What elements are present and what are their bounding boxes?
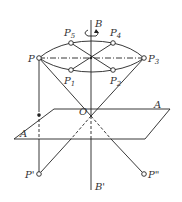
- label-p3: P3: [147, 53, 160, 66]
- point-p: [37, 56, 42, 61]
- label-b-prime: B': [94, 181, 105, 192]
- label-pdouble: P": [147, 169, 159, 180]
- line-o-pdouble-hidden: [91, 116, 111, 139]
- diagram-svg: B B' O A A P P5 P4 P3 P1 P2 P' P": [0, 0, 182, 202]
- line-o-pprime-hidden: [71, 116, 91, 139]
- point-p4: [111, 41, 116, 46]
- arc-p1-p2: [71, 70, 113, 72]
- arc-p-p5: [39, 43, 71, 58]
- point-pdouble: [142, 172, 147, 177]
- label-p4: P4: [109, 27, 121, 40]
- point-pprime: [37, 172, 42, 177]
- projection-diagram: B B' O A A P P5 P4 P3 P1 P2 P' P": [0, 0, 182, 202]
- point-p1: [69, 68, 74, 73]
- label-p1: P1: [63, 75, 75, 88]
- line-o-pprime: [41, 139, 71, 172]
- rotation-arrowhead-icon: [94, 29, 99, 33]
- line-o-pdouble: [111, 139, 142, 172]
- point-pierce: [37, 113, 41, 117]
- label-plane-a-left: A: [19, 128, 27, 139]
- label-plane-a-right: A: [153, 99, 161, 110]
- point-p5: [69, 41, 74, 46]
- label-b: B: [94, 18, 102, 29]
- point-p2: [111, 68, 116, 73]
- arc-p5-p4: [71, 41, 113, 43]
- arc-p2-p3: [113, 58, 144, 70]
- label-pprime: P': [24, 169, 34, 180]
- plane-a: [14, 109, 170, 139]
- arc-p4-p3: [113, 43, 144, 58]
- point-p3: [142, 56, 147, 61]
- label-o: O: [79, 106, 87, 117]
- label-p2: P2: [109, 75, 122, 88]
- point-center: [90, 57, 92, 59]
- label-p5: P5: [63, 27, 76, 40]
- label-p: P: [27, 53, 35, 64]
